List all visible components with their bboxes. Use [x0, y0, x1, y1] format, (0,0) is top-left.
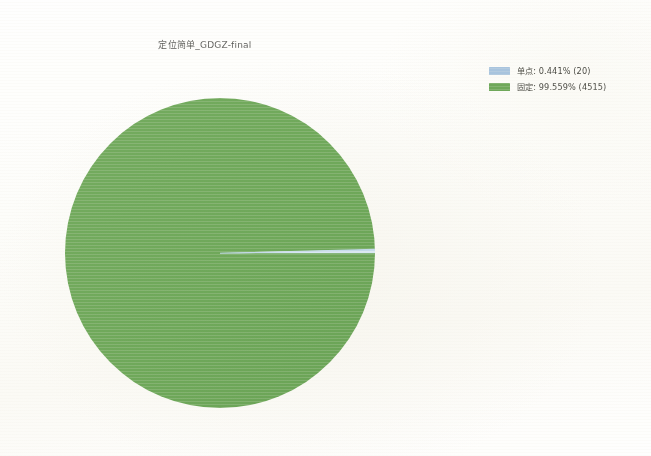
- legend: 单点: 0.441% (20) 固定: 99.559% (4515): [489, 64, 619, 96]
- pie-chart-svg: [65, 98, 375, 408]
- legend-label-single-point: 单点: 0.441% (20): [517, 66, 591, 76]
- legend-item[interactable]: 单点: 0.441% (20): [489, 64, 619, 77]
- legend-swatch-fixed: [489, 83, 510, 91]
- legend-label-fixed: 固定: 99.559% (4515): [517, 82, 606, 92]
- legend-swatch-single-point: [489, 67, 510, 75]
- legend-item[interactable]: 固定: 99.559% (4515): [489, 80, 619, 93]
- pie-chart: [65, 98, 375, 408]
- page-title: 定位简单_GDGZ-final: [0, 39, 410, 51]
- chart-figure: 定位简单_GDGZ-final: [0, 0, 651, 456]
